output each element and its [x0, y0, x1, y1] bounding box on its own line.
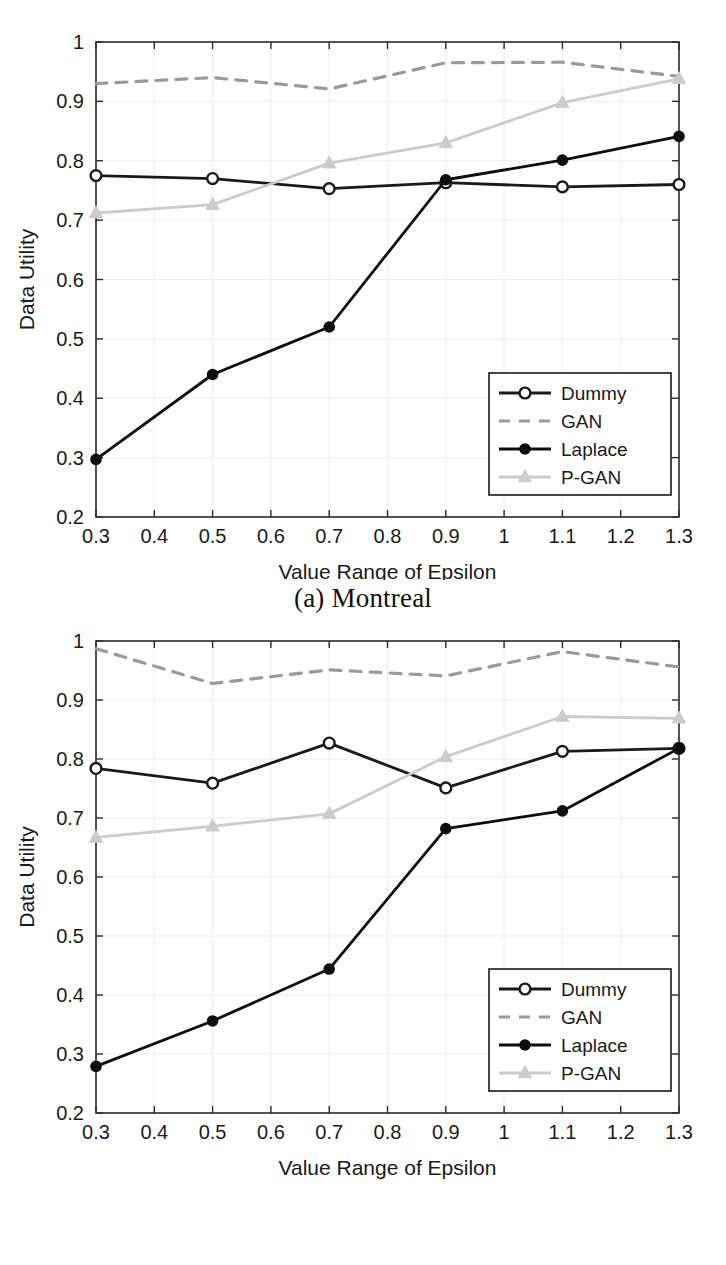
- legend-label: GAN: [561, 411, 602, 432]
- y-tick-label: 0.7: [56, 807, 84, 829]
- plot-area-montreal: 0.30.40.50.60.70.80.911.11.21.30.20.30.4…: [0, 0, 726, 580]
- figure-caption-montreal: (a) Montreal: [0, 583, 726, 614]
- marker-circle-open-dummy: [557, 746, 568, 757]
- plot-area-las-vegas: 0.30.40.50.60.70.80.911.11.21.30.20.30.4…: [0, 620, 726, 1180]
- marker-circle-filled-laplace: [441, 175, 451, 185]
- y-tick-label: 0.9: [56, 689, 84, 711]
- x-tick-label: 0.7: [315, 1121, 343, 1143]
- x-tick-label: 0.4: [140, 1121, 168, 1143]
- chart-svg-montreal: 0.30.40.50.60.70.80.911.11.21.30.20.30.4…: [0, 0, 726, 580]
- legend[interactable]: DummyGANLaplaceP-GAN: [489, 373, 671, 495]
- x-tick-label: 1.3: [665, 525, 693, 547]
- marker-circle-filled-laplace: [91, 454, 101, 464]
- x-tick-label: 0.8: [374, 525, 402, 547]
- marker-circle-filled-laplace: [91, 1061, 101, 1071]
- marker-circle-open-dummy: [91, 170, 102, 181]
- y-tick-label: 0.6: [56, 866, 84, 888]
- y-tick-label: 0.2: [56, 1102, 84, 1124]
- figure-las-vegas: 0.30.40.50.60.70.80.911.11.21.30.20.30.4…: [0, 620, 726, 1265]
- y-axis-label: Data Utility: [15, 228, 38, 330]
- y-tick-label: 0.9: [56, 90, 84, 112]
- legend-label: GAN: [561, 1007, 602, 1028]
- marker-circle-open-dummy: [91, 763, 102, 774]
- marker-circle-filled-laplace: [674, 131, 684, 141]
- y-tick-label: 0.4: [56, 387, 84, 409]
- marker-circle-open-dummy: [207, 173, 218, 184]
- marker-circle-open-dummy: [207, 778, 218, 789]
- x-tick-label: 0.5: [199, 525, 227, 547]
- legend-marker-circle-filled: [520, 444, 530, 454]
- marker-triangle-p-gan: [672, 72, 685, 84]
- chart-svg-las-vegas: 0.30.40.50.60.70.80.911.11.21.30.20.30.4…: [0, 620, 726, 1180]
- marker-circle-filled-laplace: [208, 370, 218, 380]
- y-tick-label: 0.3: [56, 447, 84, 469]
- legend-marker-circle-open: [520, 388, 531, 399]
- marker-circle-filled-laplace: [208, 1016, 218, 1026]
- marker-circle-open-dummy: [324, 738, 335, 749]
- x-tick-label: 1.2: [607, 525, 635, 547]
- y-tick-label: 0.7: [56, 209, 84, 231]
- y-tick-label: 0.5: [56, 925, 84, 947]
- x-tick-label: 0.9: [432, 525, 460, 547]
- y-tick-label: 0.8: [56, 748, 84, 770]
- x-tick-label: 0.3: [82, 1121, 110, 1143]
- y-axis-label: Data Utility: [15, 826, 38, 928]
- y-tick-label: 0.8: [56, 150, 84, 172]
- legend-label: P-GAN: [561, 1063, 621, 1084]
- x-tick-label: 1: [499, 525, 510, 547]
- legend-label: Laplace: [561, 1035, 628, 1056]
- marker-circle-open-dummy: [324, 183, 335, 194]
- legend-label: Dummy: [561, 383, 627, 404]
- x-tick-label: 0.8: [374, 1121, 402, 1143]
- y-tick-label: 0.4: [56, 984, 84, 1006]
- x-tick-label: 0.9: [432, 1121, 460, 1143]
- x-tick-label: 0.7: [315, 525, 343, 547]
- x-tick-label: 1.1: [548, 1121, 576, 1143]
- x-tick-label: 0.3: [82, 525, 110, 547]
- legend-label: Laplace: [561, 439, 628, 460]
- y-tick-label: 0.3: [56, 1043, 84, 1065]
- x-tick-label: 0.4: [140, 525, 168, 547]
- x-tick-label: 0.6: [257, 1121, 285, 1143]
- legend-marker-circle-filled: [520, 1040, 530, 1050]
- x-axis-label: Value Range of Epsilon: [279, 1156, 497, 1179]
- legend-marker-circle-open: [520, 984, 531, 995]
- legend-label: Dummy: [561, 979, 627, 1000]
- x-tick-label: 1: [499, 1121, 510, 1143]
- marker-circle-filled-laplace: [557, 806, 567, 816]
- x-axis-label: Value Range of Epsilon: [279, 560, 497, 580]
- marker-circle-filled-laplace: [674, 743, 684, 753]
- y-tick-label: 0.5: [56, 328, 84, 350]
- x-tick-label: 1.2: [607, 1121, 635, 1143]
- x-tick-label: 1.3: [665, 1121, 693, 1143]
- marker-circle-open-dummy: [440, 783, 451, 794]
- y-tick-label: 1: [73, 630, 84, 652]
- marker-circle-filled-laplace: [324, 964, 334, 974]
- marker-circle-filled-laplace: [557, 155, 567, 165]
- legend[interactable]: DummyGANLaplaceP-GAN: [489, 969, 671, 1091]
- figure-montreal: 0.30.40.50.60.70.80.911.11.21.30.20.30.4…: [0, 0, 726, 632]
- x-tick-label: 1.1: [548, 525, 576, 547]
- marker-circle-filled-laplace: [441, 824, 451, 834]
- x-tick-label: 0.5: [199, 1121, 227, 1143]
- y-tick-label: 0.6: [56, 269, 84, 291]
- y-tick-label: 1: [73, 31, 84, 53]
- legend-label: P-GAN: [561, 467, 621, 488]
- marker-circle-filled-laplace: [324, 322, 334, 332]
- marker-circle-open-dummy: [674, 179, 685, 190]
- y-tick-label: 0.2: [56, 506, 84, 528]
- marker-circle-open-dummy: [557, 181, 568, 192]
- x-tick-label: 0.6: [257, 525, 285, 547]
